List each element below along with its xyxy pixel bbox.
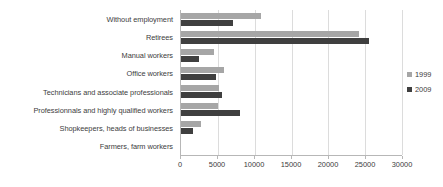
bar-1999[interactable]	[181, 49, 214, 55]
category-label: Farmers, farm workers	[0, 138, 177, 156]
bar-group	[181, 119, 402, 137]
legend-item-2009[interactable]: 2009	[407, 85, 431, 94]
legend-label: 2009	[415, 85, 431, 94]
x-tick-label: 10000	[244, 160, 265, 169]
gridline	[402, 10, 403, 155]
category-label: Technicians and associate professionals	[0, 83, 177, 101]
x-tick-label: 25000	[355, 160, 376, 169]
category-label: Shopkeepers, heads of businesses	[0, 120, 177, 138]
x-tick-label: 30000	[392, 160, 413, 169]
bar-group	[181, 64, 402, 82]
category-label: Manual workers	[0, 47, 177, 65]
legend: 19992009	[407, 70, 431, 94]
bar-2009[interactable]	[181, 74, 216, 80]
bar-1999[interactable]	[181, 13, 261, 19]
x-axis: 050001000015000200002500030000	[180, 156, 402, 172]
x-tick-label: 15000	[281, 160, 302, 169]
x-tick-label: 20000	[318, 160, 339, 169]
chart-title	[150, 0, 370, 4]
bar-2009[interactable]	[181, 92, 222, 98]
category-label: Office workers	[0, 65, 177, 83]
bar-2009[interactable]	[181, 110, 240, 116]
bar-group	[181, 28, 402, 46]
x-tickmark	[291, 156, 292, 159]
bar-2009[interactable]	[181, 56, 199, 62]
bar-group	[181, 10, 402, 28]
legend-label: 1999	[415, 70, 431, 79]
category-label: Professionnals and highly qualified work…	[0, 101, 177, 119]
x-tick-label: 0	[178, 160, 182, 169]
bar-rows	[181, 10, 402, 155]
bar-1999[interactable]	[181, 67, 224, 73]
bar-1999[interactable]	[181, 121, 201, 127]
bar-chart: Without employmentRetireesManual workers…	[0, 0, 443, 187]
legend-swatch-icon	[407, 87, 412, 92]
bar-group	[181, 137, 402, 155]
bar-2009[interactable]	[181, 20, 233, 26]
bar-group	[181, 101, 402, 119]
bar-1999[interactable]	[181, 85, 219, 91]
x-tickmark	[402, 156, 403, 159]
bar-1999[interactable]	[181, 31, 359, 37]
x-tickmark	[254, 156, 255, 159]
bar-1999[interactable]	[181, 103, 218, 109]
category-axis-labels: Without employmentRetireesManual workers…	[0, 10, 177, 156]
plot-area	[180, 10, 402, 156]
category-label: Retirees	[0, 28, 177, 46]
x-tickmark	[328, 156, 329, 159]
x-tickmark	[217, 156, 218, 159]
bar-group	[181, 83, 402, 101]
x-tick-label: 5000	[209, 160, 225, 169]
bar-2009[interactable]	[181, 128, 193, 134]
x-tickmark	[365, 156, 366, 159]
x-tickmark	[180, 156, 181, 159]
legend-swatch-icon	[407, 72, 412, 77]
bar-group	[181, 46, 402, 64]
legend-item-1999[interactable]: 1999	[407, 70, 431, 79]
category-label: Without employment	[0, 10, 177, 28]
bar-2009[interactable]	[181, 38, 369, 44]
